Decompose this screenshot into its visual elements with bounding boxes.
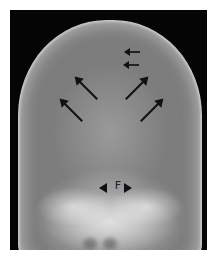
xray-image-frame: F	[10, 10, 207, 250]
f-right-arrowhead-icon	[124, 183, 132, 193]
upper-small-arrow-2-icon	[127, 64, 139, 66]
dark-spot-right	[103, 238, 117, 250]
upper-small-arrow-1-icon	[128, 51, 140, 53]
dark-spot-left	[83, 238, 97, 250]
